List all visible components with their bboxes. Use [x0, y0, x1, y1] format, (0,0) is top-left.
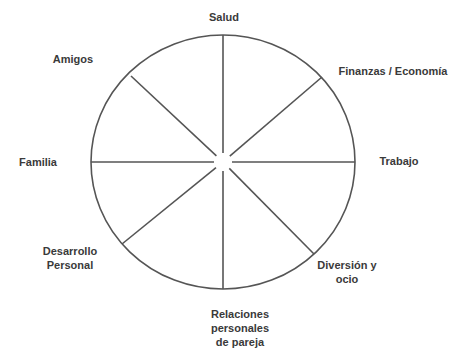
segment-label-line: Personal [43, 258, 97, 272]
spoke-line [131, 76, 216, 156]
segment-label-desarrollo: DesarrolloPersonal [43, 244, 97, 272]
segment-label-line: Diversión y [317, 258, 376, 272]
segment-label-line: Familia [19, 155, 57, 169]
segment-label-trabajo: Trabajo [379, 154, 418, 168]
spoke-line [230, 77, 322, 156]
segment-label-finanzas: Finanzas / Economía [339, 64, 448, 78]
segment-label-line: Finanzas / Economía [339, 64, 448, 78]
segment-label-relaciones: Relacionespersonalesde pareja [211, 307, 269, 349]
segment-label-line: Desarrollo [43, 244, 97, 258]
segment-label-line: personales [211, 321, 269, 335]
spokes-group [91, 35, 355, 289]
segment-label-salud: Salud [209, 10, 239, 24]
spoke-line [229, 168, 314, 254]
segment-label-line: Amigos [53, 52, 93, 66]
spoke-line [122, 168, 216, 244]
segment-label-line: de pareja [211, 335, 269, 349]
segment-label-amigos: Amigos [53, 52, 93, 66]
segment-label-familia: Familia [19, 155, 57, 169]
segment-label-line: Trabajo [379, 154, 418, 168]
segment-label-line: Salud [209, 10, 239, 24]
segment-label-diversion: Diversión yocio [317, 258, 376, 286]
segment-label-line: Relaciones [211, 307, 269, 321]
segment-label-line: ocio [317, 272, 376, 286]
